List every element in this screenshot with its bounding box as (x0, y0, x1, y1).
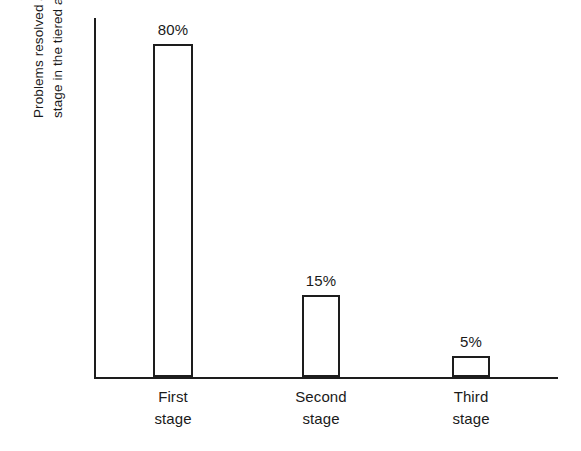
x-tick-label-second-stage-line-2: stage (295, 408, 346, 430)
plot-area: 80% 15% 5% (96, 18, 558, 377)
x-tick-label-third-stage-line-2: stage (452, 408, 489, 430)
x-tick-label-first-stage-line-2: stage (154, 408, 191, 430)
y-axis-label-line-2: stage in the tiered approach (48, 0, 67, 118)
bar-group-first-stage: 80% (153, 18, 193, 377)
x-tick-label-third-stage: Third stage (452, 386, 489, 430)
x-tick-label-first-stage-line-1: First (158, 388, 188, 405)
bar-value-first-stage: 80% (158, 22, 189, 37)
x-tick-label-third-stage-line-1: Third (454, 388, 489, 405)
y-axis-label-line-1: Problems resolved at each (29, 0, 48, 118)
bar-value-second-stage: 15% (306, 273, 337, 288)
x-tick-label-first-stage: First stage (154, 386, 191, 430)
bar-group-third-stage: 5% (452, 18, 490, 377)
bar-first-stage[interactable] (153, 44, 193, 377)
x-tick-label-second-stage: Second stage (295, 386, 346, 430)
x-tick-label-second-stage-line-1: Second (295, 388, 346, 405)
bar-third-stage[interactable] (452, 356, 490, 377)
x-axis-line (94, 377, 558, 379)
bar-value-third-stage: 5% (460, 334, 482, 349)
bar-chart-figure: Problems resolved at each stage in the t… (0, 0, 581, 451)
bar-second-stage[interactable] (302, 295, 340, 377)
bar-group-second-stage: 15% (302, 18, 340, 377)
y-axis-label: Problems resolved at each stage in the t… (20, 0, 76, 118)
